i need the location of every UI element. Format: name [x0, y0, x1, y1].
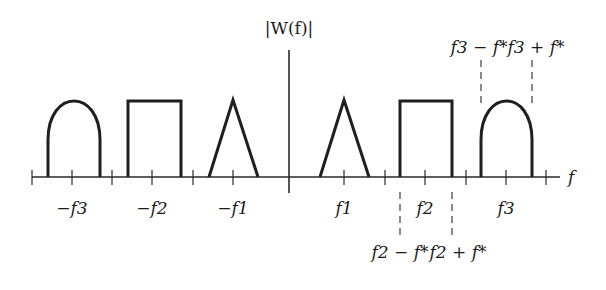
spectrum-diagram: |W(f)| f −f3 −f2 −f1 f1 f2 f3 f3 − f* f3… [0, 0, 606, 290]
tick-label-f2: f2 [414, 198, 433, 218]
tick-label-neg-f3: −f3 [56, 198, 87, 218]
arch-band-neg-f3 [48, 101, 100, 177]
tick-label-neg-f2: −f2 [136, 198, 167, 218]
annotation-f2-minus: f2 − f* [370, 242, 429, 262]
triangle-band-f1 [320, 100, 369, 177]
triangle-band-neg-f1 [209, 100, 258, 177]
rect-band-f2 [400, 101, 452, 177]
tick-label-f3: f3 [495, 198, 514, 218]
x-axis-label: f [566, 167, 577, 187]
annotation-f2-plus: f2 + f* [428, 242, 487, 262]
y-axis-label: |W(f)| [265, 18, 314, 38]
tick-label-f1: f1 [333, 198, 352, 218]
annotation-f3-plus: f3 + f* [506, 37, 565, 57]
spectrum-svg: |W(f)| f −f3 −f2 −f1 f1 f2 f3 f3 − f* f3… [0, 0, 606, 290]
rect-band-neg-f2 [128, 101, 181, 177]
arch-band-f3 [481, 101, 532, 177]
tick-label-neg-f1: −f1 [217, 198, 248, 218]
annotation-f3-minus: f3 − f* [449, 37, 508, 57]
